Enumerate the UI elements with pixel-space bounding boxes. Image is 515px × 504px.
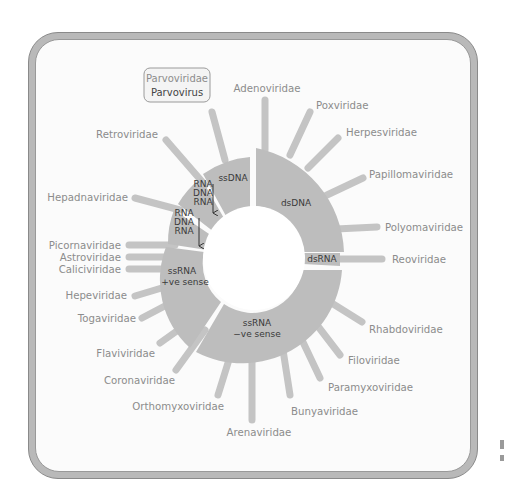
label-arenaviridae: Arenaviridae xyxy=(227,427,292,438)
spoke-rhabdoviridae xyxy=(330,302,362,322)
label-ssRNA-neg-2: −ve sense xyxy=(233,329,281,339)
label-papillomaviridae: Papillomaviridae xyxy=(369,169,453,180)
ring-hole xyxy=(203,206,305,310)
spoke-paramyxoviridae xyxy=(302,340,320,378)
label-ssRNA-pos-1: ssRNA xyxy=(168,266,197,276)
spoke-hepadnaviridae xyxy=(135,198,180,210)
label-caliciviridae: Caliciviridae xyxy=(59,264,121,275)
label-hepeviridae: Hepeviridae xyxy=(65,290,127,301)
hepadna-rna-2: RNA xyxy=(174,226,194,236)
parvoviridae-family: Parvoviridae xyxy=(146,73,208,84)
label-reoviridae: Reoviridae xyxy=(392,254,446,265)
label-filoviridae: Filoviridae xyxy=(348,355,400,366)
label-orthomyxoviridae: Orthomyxoviridae xyxy=(132,401,224,412)
spoke-polyomaviridae xyxy=(336,227,377,229)
cropped-text-fragment xyxy=(500,455,504,461)
label-herpesviridae: Herpesviridae xyxy=(346,127,417,138)
spoke-bunyaviridae xyxy=(283,350,290,395)
label-togaviridae: Togaviridae xyxy=(77,313,136,324)
label-poxviridae: Poxviridae xyxy=(316,100,369,111)
cropped-text-fragment xyxy=(500,440,504,449)
label-astroviridae: Astroviridae xyxy=(60,252,121,263)
label-hepadnaviridae: Hepadnaviridae xyxy=(47,192,128,203)
label-paramyxoviridae: Paramyxoviridae xyxy=(328,382,413,393)
label-dsRNA: dsRNA xyxy=(307,254,337,264)
parvovirus-genus: Parvovirus xyxy=(151,87,203,98)
label-dsDNA: dsDNA xyxy=(281,198,312,208)
label-bunyaviridae: Bunyaviridae xyxy=(291,406,358,417)
diagram-stage: ssDNA dsDNA dsRNA ssRNA −ve sense ssRNA … xyxy=(0,0,515,504)
spoke-poxviridae xyxy=(290,112,310,155)
spoke-filoviridae xyxy=(317,325,340,355)
label-coronaviridae: Coronaviridae xyxy=(104,375,175,386)
spoke-papillomaviridae xyxy=(327,178,363,195)
spoke-herpesviridae xyxy=(308,138,338,168)
label-ssDNA: ssDNA xyxy=(218,173,248,183)
retro-rna-2: RNA xyxy=(193,197,213,207)
label-adenoviridae: Adenoviridae xyxy=(233,83,300,94)
label-ssRNA-pos-2: +ve sense xyxy=(161,277,209,287)
label-polyomaviridae: Polyomaviridae xyxy=(385,222,463,233)
spoke-parvoviridae xyxy=(212,112,225,160)
label-picornaviridae: Picornaviridae xyxy=(49,240,121,251)
label-rhabdoviridae: Rhabdoviridae xyxy=(369,324,443,335)
label-retroviridae: Retroviridae xyxy=(96,129,158,140)
label-ssRNA-neg-1: ssRNA xyxy=(243,318,272,328)
virus-classification-wheel: ssDNA dsDNA dsRNA ssRNA −ve sense ssRNA … xyxy=(0,0,515,504)
label-flaviviridae: Flaviviridae xyxy=(96,348,155,359)
